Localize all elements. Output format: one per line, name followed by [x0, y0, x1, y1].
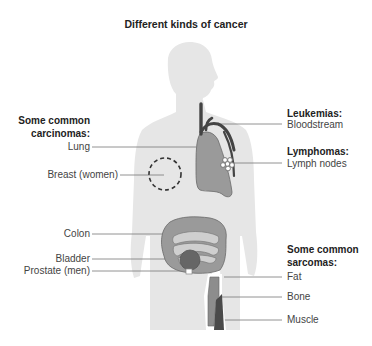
label-breast: Breast (women)	[10, 169, 118, 181]
prostate-icon	[186, 269, 192, 274]
carcinomas-heading: Some common carcinomas:	[10, 114, 90, 140]
label-lymph-nodes: Lymph nodes	[287, 158, 347, 170]
label-muscle: Muscle	[287, 314, 319, 326]
sarcomas-heading-line2: sarcomas:	[287, 256, 359, 269]
sarcomas-heading: Some common sarcomas:	[287, 243, 359, 269]
human-silhouette	[131, 42, 258, 330]
label-colon: Colon	[10, 228, 90, 240]
lymphomas-heading: Lymphomas:	[287, 145, 349, 158]
label-bloodstream: Bloodstream	[287, 119, 343, 131]
bladder-icon	[180, 250, 200, 270]
label-lung: Lung	[10, 141, 90, 153]
sarcomas-heading-line1: Some common	[287, 243, 359, 256]
label-prostate: Prostate (men)	[10, 265, 90, 277]
label-bladder: Bladder	[10, 253, 90, 265]
label-bone: Bone	[287, 291, 310, 303]
carcinomas-heading-line1: Some common	[10, 114, 90, 127]
carcinomas-heading-line2: carcinomas:	[10, 127, 90, 140]
label-fat: Fat	[287, 271, 301, 283]
